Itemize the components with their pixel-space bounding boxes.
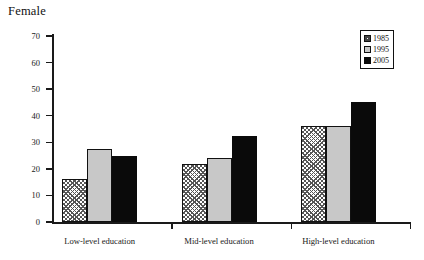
y-axis-tick: [46, 88, 53, 89]
bar-2005-1: [112, 156, 137, 222]
legend-label-1985: 1985: [373, 35, 389, 43]
legend-swatch-icon-1985: [364, 35, 371, 42]
y-axis-tick: [46, 221, 53, 222]
y-axis-tick-label: 50: [0, 84, 40, 94]
chart-title: Female: [8, 4, 46, 19]
bar-1995-2: [207, 158, 232, 222]
bar-1995-3: [326, 126, 351, 222]
bar-2005-3: [351, 102, 376, 222]
legend-swatch-icon-1995: [364, 46, 371, 53]
x-axis-category-label: Low-level education: [64, 236, 135, 246]
x-axis-category-label: High-level education: [302, 236, 374, 246]
bar-1985-3: [301, 126, 326, 222]
legend-label-2005: 2005: [373, 57, 389, 65]
legend-item-2005: 2005: [364, 55, 389, 66]
y-axis-tick-label: 40: [0, 111, 40, 121]
bar-1995-1: [87, 149, 112, 222]
y-axis-tick: [46, 35, 53, 36]
bar-1985-2: [182, 164, 207, 222]
x-axis-line: [52, 222, 410, 224]
y-axis-tick: [46, 195, 53, 196]
y-axis-tick-label: 10: [0, 190, 40, 200]
x-axis-category-label: Mid-level education: [184, 236, 253, 246]
x-axis-tick: [410, 222, 411, 229]
x-axis-tick: [291, 222, 292, 229]
y-axis-tick: [46, 62, 53, 63]
bar-2005-2: [232, 136, 257, 222]
legend-item-1985: 1985: [364, 33, 389, 44]
y-axis-tick: [46, 168, 53, 169]
legend-item-1995: 1995: [364, 44, 389, 55]
y-axis-tick-label: 0: [0, 217, 40, 227]
bar-1985-1: [62, 179, 87, 222]
legend-swatch-icon-2005: [364, 57, 371, 64]
legend-label-1995: 1995: [373, 46, 389, 54]
y-axis-tick-label: 30: [0, 137, 40, 147]
y-axis-tick-label: 60: [0, 58, 40, 68]
y-axis-tick: [46, 142, 53, 143]
chart-legend: 1985 1995 2005: [360, 30, 394, 69]
bar-chart: Female 1985 1995 2005 010203040506070Low…: [0, 0, 424, 260]
y-axis-tick: [46, 115, 53, 116]
y-axis-tick-label: 70: [0, 31, 40, 41]
y-axis-tick-label: 20: [0, 164, 40, 174]
x-axis-tick: [171, 222, 172, 229]
